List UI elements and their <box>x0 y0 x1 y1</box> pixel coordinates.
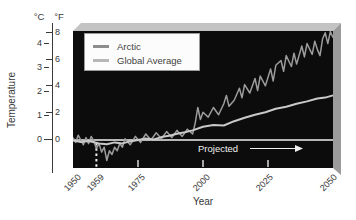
y-axis-title: Temperature <box>6 60 18 140</box>
temperature-projection-figure: °C °F Temperature 4 3 2 1 0 8 6 4 2 0 <box>0 0 356 220</box>
legend-entry-arctic: Arctic <box>93 39 199 53</box>
x-tick-label-1959: 1959 <box>78 172 107 201</box>
legend-box: Arctic Global Average <box>84 33 200 71</box>
legend-label-global-average: Global Average <box>117 55 182 66</box>
c-tick-label: 0 <box>26 134 42 144</box>
c-tick-label: 4 <box>26 38 42 48</box>
x-tick-label-1975: 1975 <box>119 172 148 201</box>
fahrenheit-unit-label: °F <box>50 11 68 22</box>
f-tick-mark <box>46 85 52 86</box>
y-axis-line <box>52 23 53 173</box>
f-tick-mark <box>46 139 52 140</box>
c-tick-mark <box>44 91 49 92</box>
x-axis-title: Year <box>173 196 233 207</box>
f-tick-label: 8 <box>55 27 71 37</box>
c-tick-mark <box>44 67 49 68</box>
c-tick-label: 3 <box>26 62 42 72</box>
f-tick-label: 0 <box>55 134 71 144</box>
c-tick-label: 1 <box>26 110 42 120</box>
f-tick-mark <box>46 59 52 60</box>
legend-swatch-1 <box>93 59 109 62</box>
x-tick-label-1950: 1950 <box>55 172 84 201</box>
legend-swatch-0 <box>93 45 109 48</box>
x-tick-label-2025: 2025 <box>247 172 276 201</box>
projected-annotation: Projected <box>198 143 250 154</box>
legend-entry-global-average: Global Average <box>93 53 199 67</box>
plot-box-top-bevel <box>73 23 341 31</box>
plot-box-right-bevel <box>333 23 341 175</box>
celsius-unit-label: °C <box>30 11 48 22</box>
f-tick-label: 2 <box>55 107 71 117</box>
x-tick-label-2050: 2050 <box>311 172 340 201</box>
f-tick-mark <box>46 112 52 113</box>
legend-label-arctic: Arctic <box>117 41 141 52</box>
c-tick-mark <box>44 43 49 44</box>
c-tick-mark <box>44 115 49 116</box>
f-tick-label: 6 <box>55 54 71 64</box>
f-tick-label: 4 <box>55 80 71 90</box>
c-tick-label: 2 <box>26 86 42 96</box>
f-tick-mark <box>46 32 52 33</box>
